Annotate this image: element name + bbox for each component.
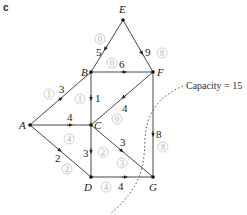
capacity-B-C: 1 <box>95 92 101 104</box>
node-label-C: C <box>94 119 102 131</box>
capacity-B-F: 6 <box>119 58 125 70</box>
arrow-icon <box>123 95 126 98</box>
flow-F-G: 8 <box>161 142 166 152</box>
capacity-A-C: 4 <box>67 111 73 123</box>
node-F <box>151 70 155 74</box>
flow-A-C: 4 <box>67 134 72 144</box>
node-label-E: E <box>118 3 126 15</box>
capacity-A-B: 3 <box>59 83 65 95</box>
node-G <box>151 175 155 179</box>
capacity-E-F: 9 <box>145 46 151 58</box>
flow-A-D: 2 <box>65 164 70 174</box>
node-B <box>89 70 93 74</box>
part-label: c <box>3 2 9 13</box>
flow-B-C: 1 <box>78 94 83 104</box>
node-A <box>28 123 32 127</box>
flow-E-B: 0 <box>98 34 103 44</box>
flow-B-F: 0 <box>110 58 115 68</box>
flow-C-D: 2 <box>101 147 106 157</box>
node-label-B: B <box>81 66 88 78</box>
capacity-C-D: 3 <box>83 147 89 159</box>
arrow-icon <box>119 149 122 152</box>
flow-F-C: 0 <box>115 114 120 124</box>
flow-E-F: 8 <box>160 48 165 58</box>
capacity-F-C: 4 <box>122 102 128 114</box>
cut-capacity-label: Capacity = 15 <box>186 80 242 91</box>
capacity-F-G: 8 <box>156 128 162 140</box>
node-D <box>89 175 93 179</box>
capacity-A-D: 2 <box>55 152 61 164</box>
flow-D-G: 4 <box>104 182 109 192</box>
capacity-C-G: 3 <box>120 136 126 148</box>
arrow-icon <box>105 46 107 49</box>
node-E <box>121 18 125 22</box>
node-label-A: A <box>18 119 26 131</box>
flow-A-B: 1 <box>47 89 52 99</box>
edge-A-D <box>30 125 91 177</box>
node-C <box>89 123 93 127</box>
capacity-D-G: 4 <box>118 180 124 192</box>
node-label-F: F <box>156 66 164 78</box>
flow-C-G: 3 <box>120 158 125 168</box>
node-label-D: D <box>83 181 92 193</box>
capacity-E-B: 5 <box>96 46 102 58</box>
network-flow-diagram: c Capacity = 15 <box>0 0 247 215</box>
arrow-icon <box>57 148 60 151</box>
node-label-G: G <box>149 181 157 193</box>
